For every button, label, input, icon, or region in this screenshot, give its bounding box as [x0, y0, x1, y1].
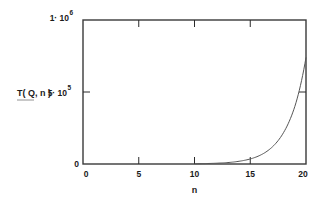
y-tick-label-1e6: 1· 10 6 — [50, 9, 74, 23]
y-tick-exponent: 6 — [70, 9, 74, 16]
x-ticks — [139, 20, 251, 164]
y-tick-label-0: 0 — [74, 159, 79, 169]
y-tick-mantissa: 1· 10 — [50, 13, 70, 23]
x-tick-label-20: 20 — [298, 169, 308, 179]
x-tick-label-0: 0 — [84, 169, 89, 179]
y-tick-label-5e5: 5· 10 5 — [48, 84, 72, 98]
x-tick-label-15: 15 — [246, 169, 256, 179]
x-axis-title: n — [192, 185, 198, 195]
x-tick-label-5: 5 — [136, 169, 141, 179]
y-axis-title: T( Q, n ) — [17, 88, 51, 98]
series-line — [195, 57, 307, 163]
y-tick-exponent: 5 — [68, 84, 72, 91]
chart: 0 5 10 15 20 n 0 5· 10 5 1· 10 6 T( Q, n… — [0, 0, 324, 203]
plot-frame — [83, 20, 306, 164]
x-tick-label-10: 10 — [190, 169, 200, 179]
